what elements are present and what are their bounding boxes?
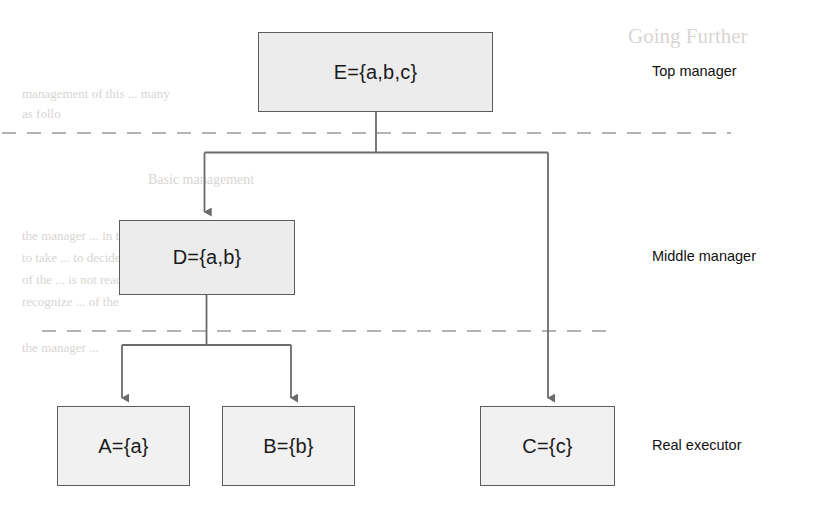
node-A-label: A={a}: [98, 435, 149, 458]
tier-label-middle-manager: Middle manager: [652, 248, 756, 264]
node-C-label: C={c}: [522, 435, 572, 458]
bleed-text-line-9: the manager ...: [22, 340, 99, 356]
tier-label-real-executor: Real executor: [652, 437, 741, 453]
node-B[interactable]: B={b}: [222, 406, 355, 486]
diagram-canvas: Going Further management of this ... man…: [0, 0, 824, 519]
bleed-text-line-2: management of this ... many: [22, 86, 170, 102]
tier-label-top-manager: Top manager: [652, 63, 737, 79]
node-E[interactable]: E={a,b,c}: [258, 32, 493, 112]
node-E-label: E={a,b,c}: [334, 61, 418, 84]
bleed-text-line-1: Going Further: [628, 24, 748, 49]
node-C[interactable]: C={c}: [480, 406, 615, 486]
bleed-text-line-4: Basic management: [148, 172, 254, 188]
bleed-text-line-8: recognize ... of the: [22, 294, 119, 310]
node-D-label: D={a,b}: [173, 246, 242, 269]
node-A[interactable]: A={a}: [57, 406, 190, 486]
node-B-label: B={b}: [263, 435, 314, 458]
node-D[interactable]: D={a,b}: [119, 220, 295, 295]
bleed-text-line-3: as follo: [22, 106, 61, 122]
